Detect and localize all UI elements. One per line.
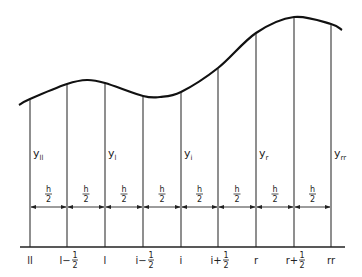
svg-text:l: l	[104, 255, 107, 266]
ordinate-label-yll: yll	[33, 147, 43, 162]
tick-label-ll: ll	[27, 255, 33, 266]
svg-text:2: 2	[223, 261, 228, 270]
svg-text:2: 2	[83, 195, 88, 204]
svg-text:i−: i−	[135, 255, 146, 266]
svg-text:2: 2	[197, 195, 202, 204]
tick-label-l-1/2: l−12	[59, 251, 78, 270]
svg-text:ll: ll	[27, 255, 33, 266]
half-h-label: h2	[234, 185, 241, 204]
svg-text:2: 2	[299, 261, 304, 270]
half-h-label: h2	[45, 185, 52, 204]
svg-text:h: h	[272, 185, 277, 194]
svg-text:2: 2	[310, 195, 315, 204]
svg-text:r: r	[254, 255, 259, 266]
svg-text:1: 1	[299, 251, 304, 260]
half-h-label: h2	[196, 185, 203, 204]
svg-text:h: h	[46, 185, 51, 194]
ordinate-labels: yllylyiyryrr	[33, 147, 346, 162]
svg-text:h: h	[310, 185, 315, 194]
tick-label-l: l	[104, 255, 107, 266]
svg-text:2: 2	[159, 195, 164, 204]
svg-text:2: 2	[148, 261, 153, 270]
half-h-label: h2	[309, 185, 316, 204]
svg-text:i: i	[180, 255, 183, 266]
svg-text:h: h	[234, 185, 239, 194]
x-tick-labels: lll−12li−12ii+12rr+12rr	[27, 251, 336, 270]
svg-text:2: 2	[46, 195, 51, 204]
ordinate-label-yrr: yrr	[334, 147, 346, 162]
tick-label-r+1/2: r+12	[286, 251, 305, 270]
svg-text:2: 2	[121, 195, 126, 204]
ordinate-label-yr: yr	[259, 147, 269, 162]
tick-label-rr: rr	[327, 255, 336, 266]
tick-label-i-1/2: i−12	[135, 251, 154, 270]
svg-text:i+: i+	[210, 255, 221, 266]
ordinate-label-yl: yl	[108, 147, 117, 162]
svg-text:h: h	[197, 185, 202, 194]
svg-text:h: h	[121, 185, 126, 194]
svg-text:1: 1	[223, 251, 228, 260]
half-h-label: h2	[83, 185, 90, 204]
svg-text:h: h	[83, 185, 88, 194]
tick-label-r: r	[254, 255, 259, 266]
ordinate-label-yi: yi	[184, 147, 193, 162]
svg-text:l−: l−	[59, 255, 70, 266]
half-h-label: h2	[272, 185, 279, 204]
svg-text:h: h	[159, 185, 164, 194]
svg-text:1: 1	[148, 251, 153, 260]
integration-diagram: h2h2h2h2h2h2h2h2 yllylyiyryrr lll−12li−1…	[0, 0, 362, 277]
half-h-label: h2	[159, 185, 166, 204]
svg-text:2: 2	[272, 195, 277, 204]
tick-label-i: i	[180, 255, 183, 266]
tick-label-i+1/2: i+12	[210, 251, 229, 270]
svg-text:1: 1	[72, 251, 77, 260]
svg-text:2: 2	[72, 261, 77, 270]
half-h-label: h2	[121, 185, 128, 204]
svg-text:2: 2	[234, 195, 239, 204]
svg-text:rr: rr	[327, 255, 336, 266]
svg-text:r+: r+	[286, 255, 299, 266]
ordinate-lines	[30, 18, 331, 247]
